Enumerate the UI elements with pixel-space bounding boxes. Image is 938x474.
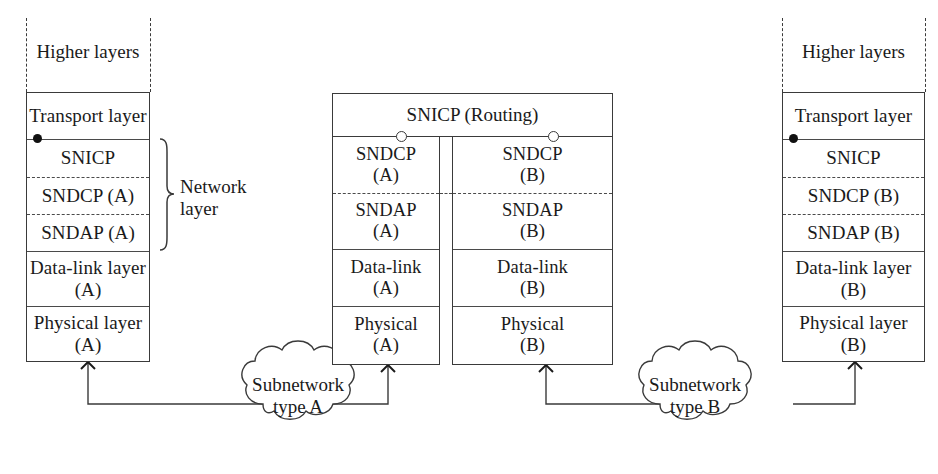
layer-sndap-b: SNDAP (B) — [783, 214, 924, 251]
layer-sndcp-a: SNDCP (A) — [27, 177, 149, 214]
layer-datalink-a: Data-link layer(A) — [27, 251, 149, 306]
network-layer-brace-icon — [160, 139, 174, 250]
connector-cloud-b-to-right — [793, 362, 855, 404]
center-router-header-label: SNICP (Routing) — [407, 104, 539, 126]
right-protocol-stack: Transport layer SNICP SNDCP (B) SNDAP (B… — [782, 92, 925, 362]
center-layer-sndap-b-text: SNDAP(B) — [453, 200, 612, 242]
layer-transport-a: Transport layer — [27, 93, 149, 139]
cloud-label-subnetwork-b: Subnetwork type B — [635, 374, 755, 418]
left-protocol-stack: Transport layer SNICP SNDCP (A) SNDAP (A… — [26, 92, 150, 362]
center-layer-sndcp-b: SNDCP(B) — [453, 137, 612, 193]
network-layer-brace-label: Networklayer — [180, 176, 270, 220]
center-layer-physical-b-text: Physical(B) — [453, 314, 612, 356]
layer-physical-b-text: Physical layer(B) — [783, 312, 924, 355]
sap-ring-router-a — [396, 131, 407, 142]
cloud-a-line1: Subnetwork — [252, 374, 344, 395]
center-layer-datalink-b: Data-link(B) — [453, 249, 612, 306]
layer-sndcp-b: SNDCP (B) — [783, 177, 924, 214]
connector-left-to-cloud-a — [88, 362, 263, 404]
center-layer-sndap-a-text: SNDAP(A) — [333, 200, 439, 242]
center-layer-datalink-a: Data-link(A) — [333, 249, 439, 306]
center-layer-sndap-b: SNDAP(B) — [453, 193, 612, 249]
layer-datalink-b-text: Data-link layer(B) — [783, 257, 924, 300]
network-layer-label-text: Networklayer — [180, 176, 246, 219]
center-router-header: SNICP (Routing) — [332, 93, 613, 137]
cloud-b-line2: type B — [670, 396, 720, 417]
higher-layers-dash-right-a — [150, 18, 151, 92]
higher-layers-label-b: Higher layers — [782, 28, 925, 76]
layer-physical-a: Physical layer(A) — [27, 306, 149, 361]
cloud-b-line1: Subnetwork — [649, 374, 741, 395]
center-layer-sndcp-b-text: SNDCP(B) — [453, 144, 612, 186]
layer-datalink-a-text: Data-link layer(A) — [27, 257, 149, 300]
cloud-a-line2: type A — [273, 396, 323, 417]
layer-physical-b: Physical layer(B) — [783, 306, 924, 361]
center-stack-column-b: SNDCP(B) SNDAP(B) Data-link(B) Physical(… — [452, 137, 613, 365]
sap-dot-right — [789, 134, 798, 143]
center-layer-sndap-a: SNDAP(A) — [333, 193, 439, 249]
center-layer-physical-b: Physical(B) — [453, 306, 612, 363]
sap-ring-router-b — [548, 131, 559, 142]
higher-layers-label-a: Higher layers — [26, 28, 150, 76]
center-layer-datalink-b-text: Data-link(B) — [453, 257, 612, 299]
center-layer-sndcp-a-text: SNDCP(A) — [333, 144, 439, 186]
layer-sndap-a: SNDAP (A) — [27, 214, 149, 251]
center-layer-physical-a-text: Physical(A) — [333, 314, 439, 356]
layer-snicp-a: SNICP — [27, 139, 149, 177]
layer-snicp-b: SNICP — [783, 139, 924, 177]
sap-dot-left — [33, 134, 42, 143]
center-stack-column-a: SNDCP(A) SNDAP(A) Data-link(A) Physical(… — [332, 137, 440, 365]
higher-layers-dash-right-b — [925, 18, 926, 92]
layer-physical-a-text: Physical layer(A) — [27, 312, 149, 355]
layer-transport-b: Transport layer — [783, 93, 924, 139]
center-layer-datalink-a-text: Data-link(A) — [333, 257, 439, 299]
center-layer-physical-a: Physical(A) — [333, 306, 439, 363]
layer-datalink-b: Data-link layer(B) — [783, 251, 924, 306]
center-gap-dashed-separator — [440, 193, 452, 194]
cloud-label-subnetwork-a: Subnetwork type A — [238, 374, 358, 418]
protocol-stack-diagram: Higher layers Transport layer SNICP SNDC… — [0, 0, 938, 474]
center-layer-sndcp-a: SNDCP(A) — [333, 137, 439, 193]
